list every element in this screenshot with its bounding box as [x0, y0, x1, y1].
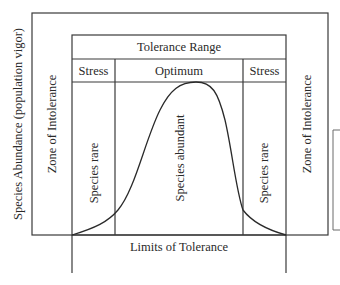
zone-intolerance-right-label: Zone of Intolerance: [301, 75, 314, 174]
zone-intolerance-left-label: Zone of Intolerance: [46, 75, 59, 174]
right-stress-label: Stress: [243, 65, 286, 78]
species-abundant-label: Species abundant: [174, 114, 187, 201]
cropped-figure-edge: [333, 130, 340, 230]
optimum-label: Optimum: [115, 65, 243, 78]
y-axis-label: Species Abundance (population vigor): [12, 28, 25, 220]
left-species-rare-label: Species rare: [88, 143, 101, 204]
limits-of-tolerance-label: Limits of Tolerance: [72, 241, 286, 254]
right-species-rare-label: Species rare: [258, 143, 271, 204]
tolerance-range-title: Tolerance Range: [72, 41, 286, 54]
left-stress-label: Stress: [72, 65, 115, 78]
